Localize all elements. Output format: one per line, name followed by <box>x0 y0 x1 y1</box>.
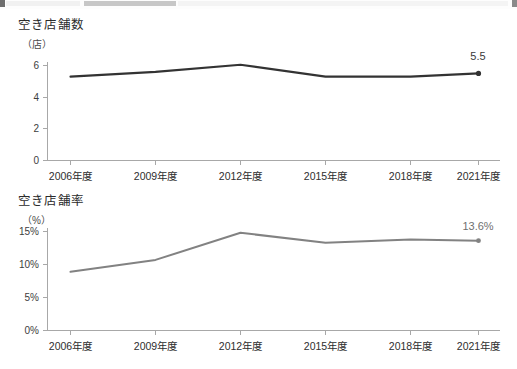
count-ytick-4: 4 <box>33 92 39 103</box>
count-xtick-2021: 2021年度 <box>457 170 501 182</box>
chart-vacant-store-count: 空き店舗数 （店） 6 4 2 0 5 <box>0 14 517 184</box>
rate-y-ticks: 15% 10% 5% 0% <box>19 226 48 336</box>
count-data-line <box>71 65 479 77</box>
toolbar-segment-light <box>6 1 80 6</box>
count-ytick-2: 2 <box>33 123 39 134</box>
count-endpoint-marker <box>476 71 481 76</box>
count-ytick-0: 0 <box>33 155 39 166</box>
rate-ytick-0: 0% <box>25 325 40 336</box>
count-xtick-2018: 2018年度 <box>389 170 433 182</box>
count-xtick-2009: 2009年度 <box>134 170 178 182</box>
toolbar-left-edge-block <box>0 0 5 7</box>
cropped-toolbar-strip <box>0 0 517 9</box>
count-ytick-6: 6 <box>33 60 39 71</box>
rate-xtick-2006: 2006年度 <box>49 340 93 352</box>
toolbar-segment-wide <box>178 1 508 6</box>
rate-x-tick-labels: 2006年度 2009年度 2012年度 2015年度 2018年度 2021年… <box>49 340 501 352</box>
chart-vacant-store-rate: 空き店舗率 （%） 15% 10% 5% 0% <box>0 190 517 369</box>
rate-xtick-2018: 2018年度 <box>389 340 433 352</box>
count-x-tick-labels: 2006年度 2009年度 2012年度 2015年度 2018年度 2021年… <box>49 170 501 182</box>
count-x-ticks <box>71 161 479 166</box>
rate-data-line <box>71 233 479 272</box>
count-value-label: 5.5 <box>470 50 485 62</box>
rate-xtick-2009: 2009年度 <box>134 340 178 352</box>
rate-x-ticks <box>71 331 479 336</box>
rate-ytick-15: 15% <box>19 226 39 237</box>
rate-xtick-2021: 2021年度 <box>457 340 501 352</box>
rate-endpoint-marker <box>476 238 481 243</box>
rate-ytick-5: 5% <box>25 292 40 303</box>
count-xtick-2006: 2006年度 <box>49 170 93 182</box>
chart-count-plot: 6 4 2 0 5.5 2006年度 2009年度 2012年度 2 <box>0 14 517 184</box>
rate-value-label: 13.6% <box>462 220 493 232</box>
chart-rate-plot: 15% 10% 5% 0% 13.6% 2006年度 2009年度 2012年度 <box>0 190 517 369</box>
rate-ytick-10: 10% <box>19 259 39 270</box>
toolbar-right-edge-block <box>512 0 517 7</box>
count-xtick-2015: 2015年度 <box>304 170 348 182</box>
count-y-ticks: 6 4 2 0 <box>33 60 47 166</box>
rate-xtick-2012: 2012年度 <box>219 340 263 352</box>
rate-xtick-2015: 2015年度 <box>304 340 348 352</box>
count-xtick-2012: 2012年度 <box>219 170 263 182</box>
toolbar-segment-dark <box>84 1 176 6</box>
